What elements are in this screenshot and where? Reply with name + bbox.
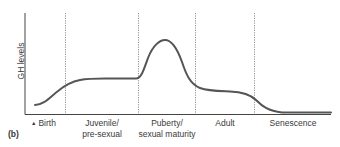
gh-curve <box>35 40 331 113</box>
phase-label-puberty: Puberty/ sexual maturity <box>131 118 203 140</box>
phase-label-adult: Adult <box>204 118 246 129</box>
panel-label: (b) <box>8 129 19 139</box>
phase-label-juvenile: Juvenile/ pre-sexual <box>72 118 132 140</box>
phase-label-senescence: Senescence <box>262 118 324 129</box>
y-axis-label: GH levels <box>16 41 26 81</box>
birth-marker: ▲Birth <box>31 118 56 128</box>
birth-arrow-icon: ▲ <box>31 120 36 126</box>
birth-label: Birth <box>38 118 55 128</box>
